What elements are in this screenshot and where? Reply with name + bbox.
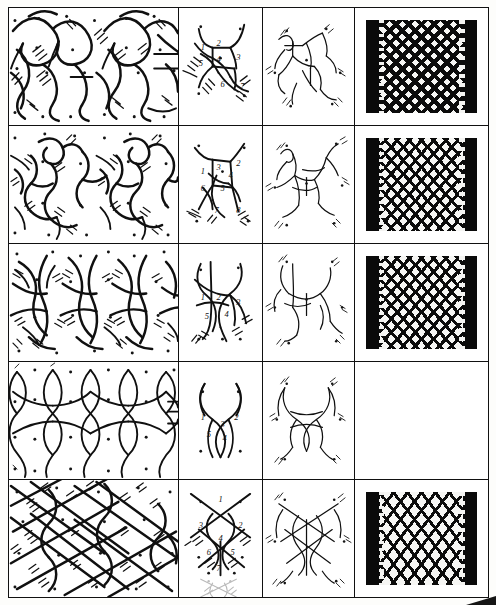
svg-text:4: 4	[228, 170, 233, 180]
repeat-pattern-diagram-row-4	[9, 362, 179, 479]
numbered-unit-cell-row-2: 1 3 2 4 6 5 7 8	[179, 126, 263, 243]
svg-text:5: 5	[205, 311, 209, 321]
photo-pin-edge-right	[459, 256, 465, 349]
lace-weave-field	[380, 138, 462, 231]
repeat-pattern-diagram-row-2	[9, 126, 179, 243]
lace-weave-field	[380, 20, 462, 113]
numbered-unit-cell-row-4: 1 2 3 5 4	[179, 362, 263, 479]
svg-text:1: 1	[201, 292, 205, 302]
svg-text:3: 3	[235, 52, 241, 62]
photo-frame	[366, 256, 477, 349]
lace-sample-photo-row-2	[355, 126, 488, 243]
thread-path-braid-row-1	[263, 8, 355, 125]
lace-sample-photo-row-4-empty	[355, 362, 488, 479]
thread-path-braid-row-3	[263, 244, 355, 361]
svg-text:7: 7	[240, 81, 245, 91]
lace-sample-photo-row-3	[355, 244, 488, 361]
table-row: 1 2 3 5 4 6 7	[9, 8, 488, 126]
svg-text:3: 3	[235, 297, 240, 307]
thread-path-braid-row-5	[263, 480, 355, 597]
lace-weave-field	[380, 256, 462, 349]
photo-frame	[366, 138, 477, 231]
svg-text:5: 5	[207, 429, 211, 439]
plate-table: 1 2 3 5 4 6 7	[8, 7, 489, 598]
numbered-unit-cell-row-5: 1 3 2 4 6 5 7	[179, 480, 263, 597]
photo-pin-edge-left	[379, 492, 384, 585]
svg-text:1: 1	[201, 411, 205, 421]
svg-text:8: 8	[236, 205, 241, 215]
svg-text:1: 1	[201, 166, 205, 176]
table-row: 1 2 3 5 4	[9, 244, 488, 362]
table-row: 1 2 3 5 4	[9, 362, 488, 480]
svg-text:3: 3	[198, 520, 203, 530]
svg-text:2: 2	[236, 158, 241, 168]
svg-text:1: 1	[201, 42, 205, 52]
svg-text:4: 4	[219, 533, 224, 543]
svg-text:4: 4	[224, 309, 229, 319]
svg-text:4: 4	[217, 54, 222, 64]
photo-pin-edge-right	[459, 138, 465, 231]
svg-text:6: 6	[207, 547, 212, 557]
photo-pin-edge-left	[379, 138, 384, 231]
table-row: 1 3 2 4 6 5 7 8	[9, 126, 488, 244]
photo-pin-edge-left	[379, 20, 384, 113]
svg-text:6: 6	[221, 79, 226, 89]
svg-text:2: 2	[217, 292, 222, 302]
table-row: 1 3 2 4 6 5 7	[9, 480, 488, 597]
svg-text:3: 3	[216, 162, 221, 172]
svg-text:6: 6	[201, 183, 206, 193]
photo-pin-edge-left	[379, 256, 384, 349]
lace-weave-field	[380, 492, 462, 585]
svg-text:7: 7	[217, 563, 222, 573]
repeat-pattern-diagram-row-5	[9, 480, 179, 597]
lace-sample-photo-row-5	[355, 480, 488, 597]
photo-frame	[366, 20, 477, 113]
svg-text:1: 1	[219, 494, 223, 504]
numbered-unit-cell-row-1: 1 2 3 5 4 6 7	[179, 8, 263, 125]
photo-pin-edge-right	[459, 20, 465, 113]
thread-path-braid-row-2	[263, 126, 355, 243]
scan-corner-mark	[466, 596, 496, 605]
photo-pin-edge-right	[459, 492, 465, 585]
svg-text:2: 2	[238, 520, 243, 530]
numbered-unit-cell-row-3: 1 2 3 5 4	[179, 244, 263, 361]
unit-number-group-row-2: 1 3 2 4 6 5 7 8	[201, 158, 242, 216]
repeat-pattern-diagram-row-3	[9, 244, 179, 361]
svg-text:5: 5	[221, 183, 225, 193]
svg-text:2: 2	[234, 411, 239, 421]
repeat-pattern-diagram-row-1	[9, 8, 179, 125]
photo-frame	[366, 492, 477, 585]
lace-sample-photo-row-1	[355, 8, 488, 125]
thread-path-braid-row-4	[263, 362, 355, 479]
svg-text:7: 7	[215, 205, 220, 215]
svg-text:4: 4	[222, 433, 227, 443]
scanned-page: 1 2 3 5 4 6 7	[0, 0, 496, 605]
svg-text:3: 3	[220, 419, 225, 429]
svg-text:5: 5	[230, 547, 234, 557]
svg-text:2: 2	[217, 37, 222, 47]
svg-text:5: 5	[199, 58, 204, 68]
